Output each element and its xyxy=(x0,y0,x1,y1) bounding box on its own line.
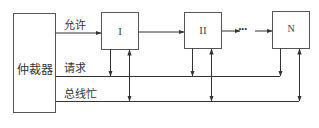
device-1-label: I xyxy=(101,26,139,37)
arbiter-label: 仲裁器 xyxy=(17,64,53,76)
grant-signal-label: 允许 xyxy=(64,20,86,31)
device-2-label: II xyxy=(184,25,222,36)
ellipsis: ··· xyxy=(238,24,247,35)
device-n-label: N xyxy=(272,24,310,34)
bus-busy-signal-label: 总线忙 xyxy=(64,89,97,100)
request-signal-label: 请求 xyxy=(64,63,86,74)
